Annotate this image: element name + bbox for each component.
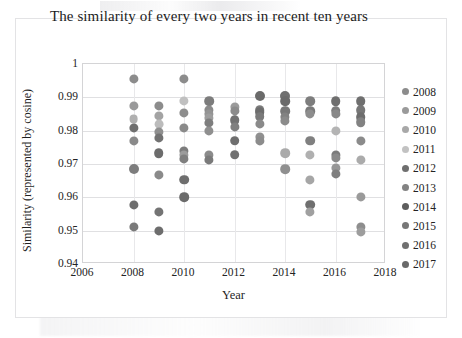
y-axis-tick-label: 0.99 xyxy=(32,90,78,102)
y-axis-tick-labels: 0.940.950.960.970.980.991 xyxy=(28,0,78,338)
legend-marker-icon xyxy=(402,203,409,210)
scatter-point xyxy=(154,133,163,142)
legend-item-2016[interactable]: 2016 xyxy=(402,236,460,255)
scatter-point xyxy=(179,193,189,203)
y-axis-tick-label: 0.98 xyxy=(32,124,78,136)
legend-marker-icon xyxy=(402,88,409,95)
legend-marker-icon xyxy=(402,222,409,229)
scatter-point xyxy=(331,126,340,135)
scatter-point xyxy=(205,126,214,135)
legend-item-label: 2009 xyxy=(413,105,436,117)
legend-item-label: 2014 xyxy=(413,201,436,213)
legend-marker-icon xyxy=(402,126,409,133)
legend-marker-icon xyxy=(402,184,409,191)
scatter-point xyxy=(154,149,164,159)
scatter-point xyxy=(331,97,341,107)
scatter-point xyxy=(179,97,188,106)
scatter-point xyxy=(129,74,138,83)
scatter-point xyxy=(154,170,163,179)
x-axis-title: Year xyxy=(82,288,385,303)
scatter-point xyxy=(154,101,163,110)
y-axis-tick-label: 0.95 xyxy=(32,224,78,236)
legend-marker-icon xyxy=(402,165,409,172)
legend-item-label: 2012 xyxy=(413,162,436,174)
scatter-point xyxy=(356,193,365,202)
legend-item-2015[interactable]: 2015 xyxy=(402,216,460,235)
scatter-point xyxy=(179,74,188,83)
legend-item-2010[interactable]: 2010 xyxy=(402,120,460,139)
gridline-vertical xyxy=(134,64,135,262)
scatter-point xyxy=(280,116,289,125)
scatter-point xyxy=(179,154,188,163)
scatter-point xyxy=(129,101,138,110)
scatter-point xyxy=(255,137,264,146)
legend-item-2012[interactable]: 2012 xyxy=(402,159,460,178)
scatter-point xyxy=(306,208,315,217)
scatter-point xyxy=(331,153,340,162)
scatter-point xyxy=(129,164,139,174)
scatter-point xyxy=(129,200,138,209)
scatter-point xyxy=(306,175,315,184)
legend-item-label: 2008 xyxy=(413,86,436,98)
legend-item-label: 2015 xyxy=(413,220,436,232)
scatter-point xyxy=(356,136,365,145)
scatter-point xyxy=(331,109,340,118)
legend-item-2008[interactable]: 2008 xyxy=(402,82,460,101)
scatter-point xyxy=(154,208,163,217)
legend-item-2009[interactable]: 2009 xyxy=(402,101,460,120)
scatter-point xyxy=(280,97,290,107)
legend-item-label: 2011 xyxy=(413,143,436,155)
legend-marker-icon xyxy=(402,107,409,114)
chart-legend: 2008200920102011201220132014201520162017 xyxy=(402,82,460,274)
scatter-point xyxy=(306,150,315,159)
scatter-point xyxy=(306,97,316,107)
y-axis-tick-label: 1 xyxy=(32,57,78,69)
y-axis-tick-label: 0.96 xyxy=(32,190,78,202)
y-axis-title: Similarity (represented by cosine) xyxy=(20,71,35,271)
legend-item-label: 2016 xyxy=(413,239,436,251)
scatter-point xyxy=(280,164,290,174)
legend-item-2014[interactable]: 2014 xyxy=(402,197,460,216)
scatter-point xyxy=(129,136,138,145)
scatter-point xyxy=(280,148,290,158)
scatter-point xyxy=(179,109,188,118)
scatter-point xyxy=(356,117,366,127)
legend-marker-icon xyxy=(402,242,409,249)
scatter-point xyxy=(179,175,189,185)
scatter-point xyxy=(356,228,365,237)
legend-item-label: 2017 xyxy=(413,258,436,270)
scatter-point xyxy=(306,136,316,146)
scatter-point xyxy=(331,169,340,178)
y-axis-tick-label: 0.97 xyxy=(32,157,78,169)
legend-item-2013[interactable]: 2013 xyxy=(402,178,460,197)
x-axis-tick-label: 2018 xyxy=(355,266,415,278)
scatter-point xyxy=(129,115,138,124)
scatter-point xyxy=(230,150,240,160)
scatter-point xyxy=(255,91,265,101)
gridline-horizontal xyxy=(83,231,384,232)
legend-item-label: 2013 xyxy=(413,182,436,194)
gridline-horizontal xyxy=(83,197,384,198)
legend-item-label: 2010 xyxy=(413,124,436,136)
scatter-point xyxy=(230,136,240,146)
plot-area xyxy=(82,63,385,263)
gridline-vertical xyxy=(235,64,236,262)
scatter-point xyxy=(306,109,315,118)
legend-marker-icon xyxy=(402,146,409,153)
scatter-point xyxy=(154,227,163,236)
legend-item-2011[interactable]: 2011 xyxy=(402,140,460,159)
scatter-point xyxy=(255,119,264,128)
